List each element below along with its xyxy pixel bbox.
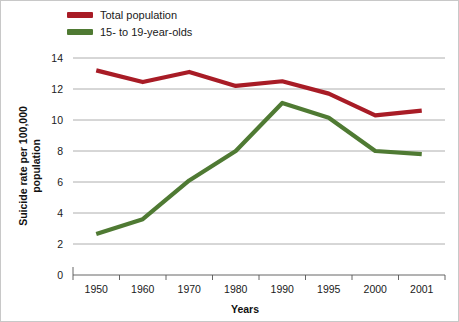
y-axis-title-line1: Suicide rate per 100,000 bbox=[17, 106, 29, 226]
y-tick-label: 10 bbox=[51, 114, 63, 126]
y-tick-label: 14 bbox=[51, 52, 63, 64]
y-tick-label: 4 bbox=[57, 207, 63, 219]
x-axis-title: Years bbox=[231, 303, 259, 315]
x-tick-labels: 19501960197019801990199520002001 bbox=[85, 283, 434, 295]
x-tick-label: 1990 bbox=[271, 283, 295, 295]
x-tick-label: 1980 bbox=[224, 283, 248, 295]
x-tick-label: 1970 bbox=[178, 283, 202, 295]
series-lines bbox=[96, 70, 422, 234]
x-tick-marks bbox=[73, 275, 445, 280]
y-axis-title-line2: population bbox=[30, 139, 42, 193]
x-tick-label: 2000 bbox=[364, 283, 388, 295]
axis-lines bbox=[73, 267, 445, 275]
y-tick-label: 0 bbox=[57, 269, 63, 281]
y-tick-label: 2 bbox=[57, 238, 63, 250]
y-tick-label: 6 bbox=[57, 176, 63, 188]
plot-area: 02468101214 1950196019701980199019952000… bbox=[1, 1, 459, 322]
y-tick-label: 8 bbox=[57, 145, 63, 157]
chart-figure: Total population 15- to 19-year-olds 024… bbox=[0, 0, 459, 322]
x-tick-label: 1950 bbox=[85, 283, 109, 295]
y-axis-title: Suicide rate per 100,000 population bbox=[17, 106, 42, 226]
y-tick-labels: 02468101214 bbox=[51, 52, 63, 281]
series-line-total-population bbox=[96, 70, 422, 115]
y-tick-label: 12 bbox=[51, 83, 63, 95]
x-tick-label: 1960 bbox=[131, 283, 155, 295]
series-line-teens bbox=[96, 103, 422, 234]
x-tick-label: 1995 bbox=[317, 283, 341, 295]
x-tick-label: 2001 bbox=[410, 283, 434, 295]
chart-svg: 02468101214 1950196019701980199019952000… bbox=[1, 1, 459, 322]
